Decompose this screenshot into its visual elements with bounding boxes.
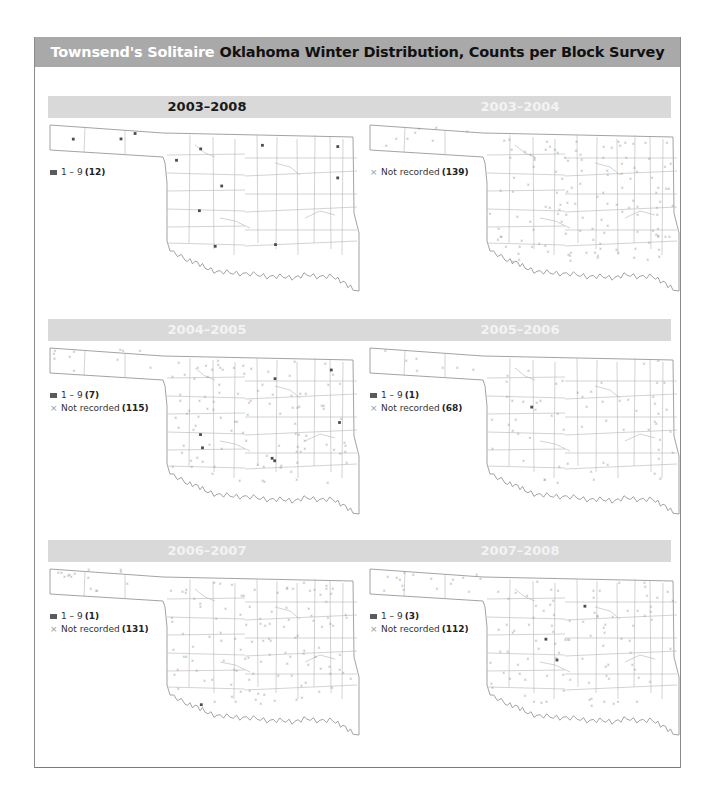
svg-text:×: ×	[521, 399, 524, 404]
svg-text:×: ×	[383, 588, 386, 593]
svg-text:×: ×	[221, 367, 224, 372]
svg-text:×: ×	[304, 391, 307, 396]
svg-text:×: ×	[191, 644, 194, 649]
svg-text:×: ×	[653, 471, 656, 476]
svg-text:×: ×	[326, 480, 329, 485]
svg-text:×: ×	[605, 418, 608, 423]
svg-text:×: ×	[635, 408, 638, 413]
svg-text:×: ×	[574, 148, 577, 153]
svg-text:×: ×	[650, 617, 653, 622]
svg-text:×: ×	[68, 354, 71, 359]
svg-text:×: ×	[230, 682, 233, 687]
svg-text:×: ×	[648, 679, 651, 684]
svg-text:×: ×	[506, 373, 509, 378]
svg-text:×: ×	[669, 429, 672, 434]
svg-text:×: ×	[596, 253, 599, 258]
x-marker-icon: ×	[370, 402, 377, 415]
svg-text:×: ×	[592, 588, 595, 593]
svg-text:×: ×	[568, 677, 571, 682]
svg-text:×: ×	[606, 223, 609, 228]
map-panel-2007-2008: ××××××××××××××××××××××××××××××××××××××××…	[365, 567, 685, 757]
svg-text:×: ×	[248, 677, 251, 682]
svg-text:×: ×	[72, 368, 75, 373]
svg-text:×: ×	[527, 182, 530, 187]
svg-text:×: ×	[578, 181, 581, 186]
svg-text:×: ×	[273, 698, 276, 703]
svg-text:×: ×	[511, 189, 514, 194]
svg-text:×: ×	[250, 366, 253, 371]
svg-text:×: ×	[590, 703, 593, 708]
svg-text:×: ×	[451, 577, 454, 582]
svg-text:×: ×	[345, 460, 348, 465]
svg-text:×: ×	[581, 656, 584, 661]
svg-text:×: ×	[171, 374, 174, 379]
svg-text:×: ×	[655, 232, 658, 237]
svg-text:×: ×	[516, 662, 519, 667]
svg-text:×: ×	[620, 171, 623, 176]
svg-text:×: ×	[514, 417, 517, 422]
svg-text:×: ×	[193, 376, 196, 381]
svg-text:×: ×	[528, 435, 531, 440]
svg-text:×: ×	[498, 649, 501, 654]
svg-text:×: ×	[300, 683, 303, 688]
svg-text:×: ×	[329, 621, 332, 626]
svg-text:×: ×	[230, 582, 233, 587]
svg-text:×: ×	[211, 677, 214, 682]
svg-text:×: ×	[332, 447, 335, 452]
svg-text:×: ×	[187, 408, 190, 413]
svg-text:×: ×	[253, 587, 256, 592]
svg-text:×: ×	[656, 212, 659, 217]
svg-text:×: ×	[338, 652, 341, 657]
svg-text:×: ×	[222, 658, 225, 663]
map-legend: 1 – 9(3)×Not recorded(112)	[370, 610, 469, 636]
svg-text:×: ×	[532, 615, 535, 620]
svg-text:×: ×	[548, 144, 551, 149]
svg-text:×: ×	[576, 390, 579, 395]
svg-text:×: ×	[601, 643, 604, 648]
svg-text:×: ×	[518, 671, 521, 676]
svg-text:×: ×	[254, 697, 257, 702]
svg-text:×: ×	[602, 144, 605, 149]
svg-text:×: ×	[669, 646, 672, 651]
svg-text:×: ×	[242, 371, 245, 376]
map-panel-2004-2005: ××××××××××××××××××××××××××××××××××××××××…	[45, 346, 365, 536]
svg-text:×: ×	[66, 573, 69, 578]
svg-text:×: ×	[307, 606, 310, 611]
svg-text:×: ×	[616, 699, 619, 704]
svg-text:×: ×	[395, 575, 398, 580]
svg-text:×: ×	[651, 394, 654, 399]
svg-text:×: ×	[219, 630, 222, 635]
svg-text:×: ×	[502, 670, 505, 675]
legend-item-not-recorded: ×Not recorded(131)	[50, 623, 149, 636]
map-panel-2003-2004: ××××××××××××××××××××××××××××××××××××××××…	[365, 123, 685, 313]
svg-text:×: ×	[556, 588, 559, 593]
svg-text:×: ×	[666, 589, 669, 594]
svg-text:×: ×	[523, 693, 526, 698]
legend-label: Not recorded	[61, 402, 120, 415]
legend-count: (3)	[405, 610, 420, 623]
svg-text:×: ×	[658, 437, 661, 442]
svg-text:×: ×	[636, 204, 639, 209]
svg-text:×: ×	[116, 357, 119, 362]
svg-text:×: ×	[505, 622, 508, 627]
svg-text:×: ×	[635, 169, 638, 174]
svg-text:×: ×	[568, 253, 571, 258]
svg-text:×: ×	[299, 449, 302, 454]
svg-text:×: ×	[599, 246, 602, 251]
square-marker-icon	[50, 614, 57, 619]
svg-text:×: ×	[620, 636, 623, 641]
svg-text:×: ×	[182, 443, 185, 448]
year-bar-row-3: 2006–2007 2007–2008	[48, 540, 671, 562]
svg-text:×: ×	[149, 365, 152, 370]
svg-text:×: ×	[663, 380, 666, 385]
svg-text:×: ×	[514, 590, 517, 595]
svg-text:×: ×	[343, 449, 346, 454]
year-label-2003-2008: 2003–2008	[127, 96, 287, 118]
svg-text:×: ×	[60, 570, 63, 575]
svg-text:×: ×	[557, 464, 560, 469]
svg-text:×: ×	[511, 428, 514, 433]
svg-text:×: ×	[250, 639, 253, 644]
svg-text:×: ×	[552, 598, 555, 603]
svg-text:×: ×	[261, 382, 264, 387]
svg-text:×: ×	[643, 584, 646, 589]
